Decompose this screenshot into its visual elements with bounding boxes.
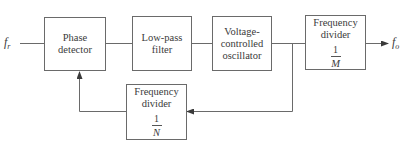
- frequency-divider-m-block: Frequency divider 1 M: [305, 15, 366, 70]
- vco-label-line1: Voltage-: [224, 26, 259, 38]
- phase-detector-block: Phase detector: [44, 17, 106, 71]
- divider-n-label-line1: Frequency: [134, 86, 178, 98]
- divider-m-label-line2: divider: [321, 29, 351, 41]
- vco-label-line2: controlled: [221, 38, 264, 50]
- vco-block: Voltage- controlled oscillator: [212, 16, 272, 71]
- output-signal-label: fo: [392, 35, 399, 51]
- frequency-divider-n-block: Frequency divider 1 N: [126, 84, 187, 140]
- phase-detector-label: Phase detector: [45, 32, 105, 56]
- divider-m-fraction: 1 M: [331, 44, 341, 69]
- divider-m-label-line1: Frequency: [313, 17, 357, 29]
- low-pass-filter-label-line2: filter: [152, 44, 172, 56]
- input-signal-label: fr: [4, 35, 10, 51]
- divider-n-label-line2: divider: [142, 98, 172, 110]
- low-pass-filter-label-line1: Low-pass: [142, 32, 183, 44]
- low-pass-filter-block: Low-pass filter: [132, 16, 192, 71]
- divider-n-fraction: 1 N: [152, 113, 162, 138]
- vco-label-line3: oscillator: [222, 50, 261, 62]
